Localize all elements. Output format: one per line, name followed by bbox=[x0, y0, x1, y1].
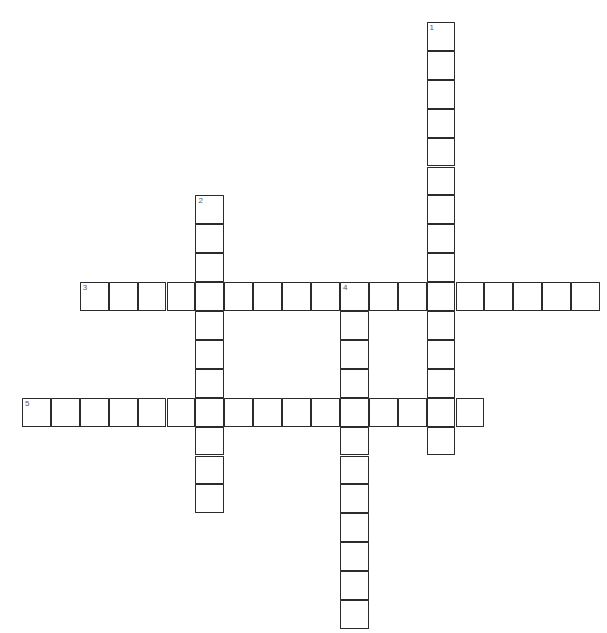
crossword-cell[interactable] bbox=[427, 398, 456, 427]
cell-letter bbox=[399, 283, 426, 310]
crossword-cell[interactable] bbox=[398, 282, 427, 311]
crossword-cell[interactable] bbox=[340, 542, 369, 571]
crossword-cell[interactable] bbox=[427, 109, 456, 138]
cell-letter bbox=[196, 428, 223, 455]
crossword-cell[interactable] bbox=[138, 398, 167, 427]
cell-letter bbox=[457, 399, 484, 426]
cell-letter bbox=[428, 254, 455, 281]
clue-number-3: 3 bbox=[83, 283, 87, 293]
clue-number-1: 1 bbox=[430, 23, 434, 33]
cell-letter bbox=[196, 399, 223, 426]
crossword-cell[interactable] bbox=[311, 282, 340, 311]
crossword-cell[interactable] bbox=[195, 311, 224, 340]
crossword-cell[interactable] bbox=[80, 398, 109, 427]
crossword-cell[interactable] bbox=[340, 456, 369, 485]
crossword-cell[interactable]: 4 bbox=[340, 282, 369, 311]
cell-letter bbox=[370, 399, 397, 426]
crossword-cell[interactable] bbox=[427, 311, 456, 340]
cell-letter bbox=[341, 312, 368, 339]
cell-letter bbox=[341, 514, 368, 541]
crossword-cell[interactable] bbox=[195, 427, 224, 456]
cell-letter bbox=[196, 341, 223, 368]
crossword-cell[interactable] bbox=[138, 282, 167, 311]
crossword-cell[interactable] bbox=[427, 253, 456, 282]
crossword-cell[interactable] bbox=[456, 282, 485, 311]
crossword-cell[interactable] bbox=[195, 224, 224, 253]
cell-letter bbox=[341, 543, 368, 570]
crossword-cell[interactable] bbox=[340, 571, 369, 600]
cell-letter bbox=[428, 110, 455, 137]
cell-letter bbox=[514, 283, 541, 310]
crossword-cell[interactable]: 1 bbox=[427, 22, 456, 51]
cell-letter bbox=[428, 52, 455, 79]
cell-letter bbox=[428, 168, 455, 195]
cell-letter bbox=[572, 283, 599, 310]
crossword-cell[interactable] bbox=[195, 282, 224, 311]
crossword-cell[interactable] bbox=[109, 398, 138, 427]
cell-letter bbox=[168, 399, 195, 426]
crossword-cell[interactable] bbox=[253, 282, 282, 311]
crossword-cell[interactable] bbox=[398, 398, 427, 427]
crossword-cell[interactable] bbox=[167, 398, 196, 427]
crossword-cell[interactable] bbox=[427, 369, 456, 398]
crossword-cell[interactable] bbox=[456, 398, 485, 427]
crossword-cell[interactable] bbox=[542, 282, 571, 311]
crossword-cell[interactable] bbox=[311, 398, 340, 427]
crossword-cell[interactable] bbox=[224, 398, 253, 427]
crossword-cell[interactable] bbox=[195, 253, 224, 282]
crossword-cell[interactable] bbox=[427, 195, 456, 224]
crossword-cell[interactable] bbox=[427, 80, 456, 109]
clue-number-4: 4 bbox=[343, 283, 347, 293]
cell-letter bbox=[110, 283, 137, 310]
crossword-cell[interactable] bbox=[427, 138, 456, 167]
crossword-cell[interactable] bbox=[195, 484, 224, 513]
cell-letter bbox=[52, 399, 79, 426]
cell-letter bbox=[428, 196, 455, 223]
crossword-cell[interactable] bbox=[282, 282, 311, 311]
crossword-cell[interactable] bbox=[427, 340, 456, 369]
crossword-cell[interactable] bbox=[427, 282, 456, 311]
crossword-cell[interactable] bbox=[369, 398, 398, 427]
crossword-cell[interactable] bbox=[427, 167, 456, 196]
crossword-grid[interactable]: 12345 bbox=[0, 0, 607, 633]
crossword-cell[interactable] bbox=[340, 427, 369, 456]
crossword-cell[interactable] bbox=[513, 282, 542, 311]
crossword-cell[interactable] bbox=[340, 398, 369, 427]
crossword-cell[interactable] bbox=[427, 224, 456, 253]
crossword-cell[interactable] bbox=[340, 484, 369, 513]
cell-letter bbox=[254, 399, 281, 426]
crossword-cell[interactable] bbox=[195, 456, 224, 485]
crossword-cell[interactable] bbox=[484, 282, 513, 311]
crossword-cell[interactable] bbox=[340, 369, 369, 398]
crossword-cell[interactable] bbox=[167, 282, 196, 311]
clue-number-2: 2 bbox=[198, 196, 202, 206]
crossword-cell[interactable]: 2 bbox=[195, 195, 224, 224]
cell-letter bbox=[428, 312, 455, 339]
crossword-cell[interactable] bbox=[340, 340, 369, 369]
crossword-cell[interactable] bbox=[109, 282, 138, 311]
crossword-cell[interactable]: 5 bbox=[22, 398, 51, 427]
cell-letter bbox=[428, 283, 455, 310]
crossword-cell[interactable] bbox=[340, 311, 369, 340]
crossword-cell[interactable]: 3 bbox=[80, 282, 109, 311]
crossword-cell[interactable] bbox=[195, 398, 224, 427]
cell-letter bbox=[196, 254, 223, 281]
crossword-cell[interactable] bbox=[340, 513, 369, 542]
crossword-cell[interactable] bbox=[195, 369, 224, 398]
crossword-cell[interactable] bbox=[427, 427, 456, 456]
crossword-cell[interactable] bbox=[571, 282, 600, 311]
cell-letter bbox=[341, 485, 368, 512]
crossword-cell[interactable] bbox=[369, 282, 398, 311]
cell-letter bbox=[196, 225, 223, 252]
crossword-cell[interactable] bbox=[253, 398, 282, 427]
crossword-cell[interactable] bbox=[427, 51, 456, 80]
crossword-cell[interactable] bbox=[282, 398, 311, 427]
crossword-cell[interactable] bbox=[340, 600, 369, 629]
crossword-cell[interactable] bbox=[195, 340, 224, 369]
crossword-cell[interactable] bbox=[224, 282, 253, 311]
cell-letter bbox=[196, 485, 223, 512]
crossword-cell[interactable] bbox=[51, 398, 80, 427]
cell-letter bbox=[341, 399, 368, 426]
cell-letter bbox=[196, 457, 223, 484]
cell-letter bbox=[283, 283, 310, 310]
